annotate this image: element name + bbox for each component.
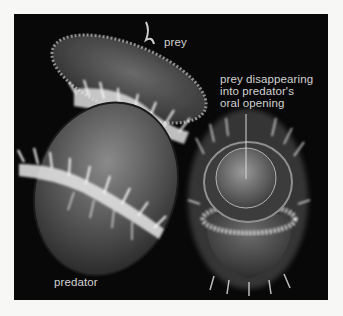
oral-opening-label-line-1: prey disappearing: [220, 73, 313, 85]
prey-label: prey: [164, 36, 187, 48]
oral-opening-label-line-2: into predator's: [220, 85, 313, 97]
predator-oral-view: [188, 109, 310, 296]
micrograph-panel: prey predator prey disappearing into pre…: [14, 14, 328, 300]
predator-label: predator: [54, 276, 98, 288]
oral-opening-label: prey disappearing into predator's oral o…: [220, 73, 313, 109]
micrograph-image: [14, 14, 328, 300]
oral-opening-label-line-3: oral opening: [220, 97, 313, 109]
